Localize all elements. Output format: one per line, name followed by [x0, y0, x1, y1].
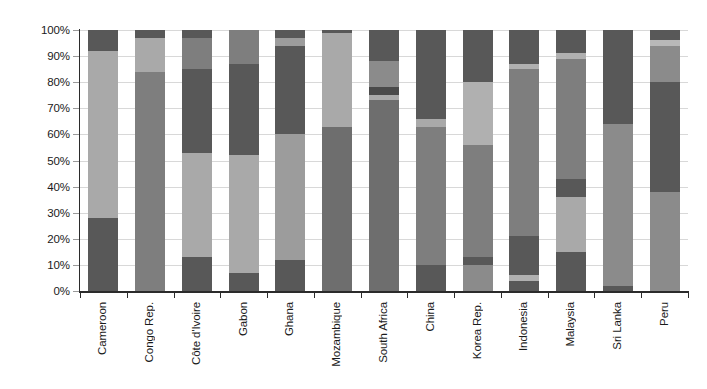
y-axis-tick-label: 70% [47, 102, 70, 114]
y-axis-tick-label: 50% [47, 155, 70, 167]
x-axis-tick-mark [267, 292, 268, 298]
bar-segment [182, 30, 212, 38]
x-axis-tick-mark [220, 292, 221, 298]
bar-segment [369, 87, 399, 95]
plot-area [80, 30, 688, 291]
bar-segment [650, 192, 680, 291]
bar-segment [229, 273, 259, 291]
bar-segment [322, 127, 352, 291]
x-axis-tick-label: Indonesia [517, 302, 529, 351]
y-axis-tick-label: 20% [47, 233, 70, 245]
bar-mozambique [322, 30, 352, 291]
bar-segment [556, 53, 586, 58]
bar-segment [416, 127, 446, 265]
x-axis-tick-mark [594, 292, 595, 298]
x-axis-tick-label: Cameroon [96, 302, 108, 355]
bar-segment [556, 252, 586, 291]
bar-c-te-d-ivoire [182, 30, 212, 291]
bar-segment [88, 218, 118, 291]
bar-segment [463, 82, 493, 145]
x-axis-tick-label: Korea Rep. [471, 302, 483, 359]
x-axis-tick-mark [174, 292, 175, 298]
x-axis-tick-label: Mozambique [330, 302, 342, 367]
bar-indonesia [509, 30, 539, 291]
bar-segment [135, 72, 165, 291]
y-axis-tick-label: 0% [54, 285, 70, 297]
bar-segment [509, 30, 539, 64]
x-axis-tick-mark [127, 292, 128, 298]
bar-segment [509, 69, 539, 236]
bar-segment [275, 30, 305, 38]
bar-segment [182, 69, 212, 153]
bar-segment [275, 46, 305, 135]
x-axis-tick-label: Sri Lanka [611, 302, 623, 350]
x-axis-tick-label: Peru [658, 302, 670, 326]
bar-segment [182, 257, 212, 291]
bar-segment [509, 281, 539, 291]
bar-segment [275, 134, 305, 259]
y-axis-tick-label: 90% [47, 50, 70, 62]
bar-gabon [229, 30, 259, 291]
bar-segment [135, 38, 165, 72]
y-axis-tick-label: 40% [47, 181, 70, 193]
bar-segment [322, 33, 352, 127]
bar-segment [650, 82, 680, 192]
bar-segment [416, 265, 446, 291]
bar-segment [275, 38, 305, 46]
bar-ghana [275, 30, 305, 291]
bar-segment [463, 145, 493, 257]
bar-segment [650, 40, 680, 45]
bar-segment [229, 64, 259, 155]
bar-segment [509, 236, 539, 275]
x-axis-tick-mark [80, 292, 81, 298]
bar-segment [556, 59, 586, 179]
bar-segment [416, 30, 446, 119]
bar-china [416, 30, 446, 291]
bar-cameroon [88, 30, 118, 291]
x-axis-tick-label: Ghana [283, 302, 295, 336]
y-axis-tick-label: 100% [41, 24, 70, 36]
x-axis-tick-label: Congo Rep. [143, 302, 155, 362]
x-axis-tick-mark [501, 292, 502, 298]
bar-segment [556, 179, 586, 197]
y-axis-tick-label: 30% [47, 207, 70, 219]
bar-segment [509, 64, 539, 69]
bar-segment [463, 265, 493, 291]
bar-segment [509, 275, 539, 280]
y-axis-tick-label: 60% [47, 128, 70, 140]
bar-segment [182, 153, 212, 257]
y-axis-tick-label: 80% [47, 76, 70, 88]
bar-peru [650, 30, 680, 291]
x-axis-tick-mark [407, 292, 408, 298]
x-axis-tick-label: China [424, 302, 436, 332]
bar-segment [135, 30, 165, 38]
x-axis-tick-label: South Africa [377, 302, 389, 363]
bar-segment [603, 30, 633, 124]
bar-segment [182, 38, 212, 69]
bar-segment [463, 30, 493, 82]
x-axis-tick-mark [454, 292, 455, 298]
bar-segment [369, 61, 399, 87]
x-axis-tick-label: Gabon [237, 302, 249, 336]
bar-sri-lanka [603, 30, 633, 291]
bar-congo-rep [135, 30, 165, 291]
bar-korea-rep [463, 30, 493, 291]
bar-segment [463, 257, 493, 265]
bar-segment [603, 124, 633, 286]
x-axis-tick-label: Malaysia [564, 302, 576, 347]
x-axis-tick-mark [361, 292, 362, 298]
x-axis-tick-mark [314, 292, 315, 298]
x-axis-tick-mark [548, 292, 549, 298]
bar-segment [369, 95, 399, 100]
y-axis-tick-label: 10% [47, 259, 70, 271]
bar-malaysia [556, 30, 586, 291]
bar-segment [416, 119, 446, 127]
stacked-bar-chart: 0%10%20%30%40%50%60%70%80%90%100% Camero… [0, 0, 707, 389]
bar-segment [556, 30, 586, 53]
x-axis: CameroonCongo Rep.Côte d'IvoireGabonGhan… [80, 292, 688, 389]
bar-segment [369, 100, 399, 291]
bar-segment [650, 46, 680, 83]
x-axis-tick-mark [641, 292, 642, 298]
x-axis-tick-mark [688, 292, 689, 298]
bar-segment [275, 260, 305, 291]
